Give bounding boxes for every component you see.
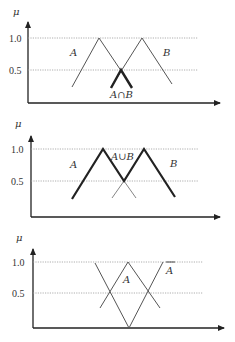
- tick-label-1: 1.0: [11, 144, 24, 155]
- complement-curve: [95, 262, 163, 328]
- panel-union: μ 1.0 0.5 A B A∪B: [11, 118, 220, 217]
- set-a-label: A: [69, 47, 77, 58]
- set-a-label: A: [69, 159, 77, 170]
- union-label: A∪B: [110, 151, 134, 162]
- complement-label: A: [165, 265, 173, 276]
- tick-label-05: 0.5: [12, 288, 25, 299]
- y-axis-label: μ: [16, 232, 23, 243]
- y-axis-label: μ: [13, 6, 20, 17]
- set-b-label: B: [162, 47, 170, 58]
- fuzzy-set-operations-diagram: μ 1.0 0.5 A B A∩B μ 1.0 0.5 A B A∪B μ 1.…: [0, 0, 235, 342]
- set-a-label: A: [122, 274, 130, 285]
- set-a-curve: [72, 38, 132, 87]
- set-b-curve: [111, 38, 172, 87]
- y-axis-label: μ: [15, 118, 22, 129]
- tick-label-1: 1.0: [9, 33, 22, 44]
- intersection-curve: [111, 70, 132, 88]
- hidden-lower-segments: [112, 181, 136, 198]
- tick-label-05: 0.5: [11, 176, 24, 187]
- panel-intersection: μ 1.0 0.5 A B A∩B: [9, 6, 220, 103]
- intersection-label: A∩B: [109, 89, 133, 100]
- set-b-label: B: [169, 158, 177, 169]
- tick-label-1: 1.0: [12, 257, 25, 268]
- panel-complement: μ 1.0 0.5 A A: [12, 232, 224, 328]
- tick-label-05: 0.5: [9, 65, 22, 76]
